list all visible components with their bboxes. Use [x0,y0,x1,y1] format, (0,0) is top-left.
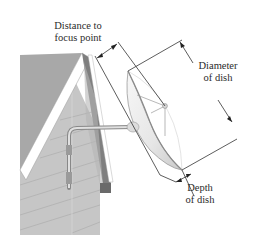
label-diameter-line1: Diameter [190,60,246,72]
label-distance-line1: Distance to [48,20,108,32]
dish-hub [127,122,139,132]
satellite-dish-diagram: Distance to focus point Diameter of dish… [0,0,253,249]
label-distance-to-focus-point: Distance to focus point [48,20,108,44]
label-diameter-of-dish: Diameter of dish [190,60,246,84]
label-depth-line1: Depth [180,182,220,194]
label-depth-of-dish: Depth of dish [180,182,220,206]
label-diameter-line2: of dish [190,72,246,84]
eave-end [100,183,111,193]
label-distance-line2: focus point [48,32,108,44]
satellite-dish [127,71,182,170]
house [20,53,113,235]
diagram-graphic [0,0,253,249]
label-depth-line2: of dish [180,194,220,206]
